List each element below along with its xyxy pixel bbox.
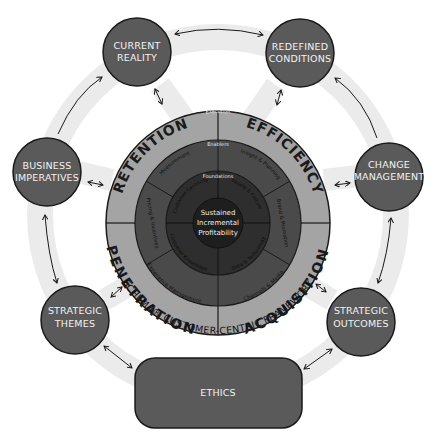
svg-text:REALITY: REALITY — [117, 52, 157, 63]
node-ethics: ETHICS — [135, 358, 302, 428]
svg-text:STRATEGIC: STRATEGIC — [48, 305, 102, 316]
svg-text:MANAGEMENT: MANAGEMENT — [354, 171, 425, 182]
core-line-1: Sustained — [201, 209, 236, 217]
core-line-2: Incremental — [197, 219, 239, 227]
svg-text:REDEFINED: REDEFINED — [272, 41, 328, 52]
node-current-reality: CURRENT REALITY — [103, 18, 171, 86]
node-change-management: CHANGE MANAGEMENT — [354, 143, 425, 211]
node-strategic-themes: STRATEGIC THEMES — [41, 286, 109, 354]
svg-text:OUTCOMES: OUTCOMES — [333, 318, 389, 329]
svg-text:IMPERATIVES: IMPERATIVES — [15, 172, 79, 183]
enablers-label: Enablers — [207, 141, 229, 147]
node-strategic-outcomes: STRATEGIC OUTCOMES — [327, 288, 395, 356]
svg-text:CURRENT: CURRENT — [113, 40, 160, 51]
svg-text:BUSINESS: BUSINESS — [22, 160, 71, 171]
execution-label: Execution — [205, 108, 230, 115]
svg-text:CHANGE: CHANGE — [368, 159, 410, 170]
svg-text:CONDITIONS: CONDITIONS — [269, 53, 332, 64]
node-business-imperatives: BUSINESS IMPERATIVES — [13, 138, 81, 206]
framework-diagram: Execution RETENTION EFFICIENCY PENETRATI… — [0, 0, 436, 441]
core-line-3: Profitability — [198, 229, 238, 237]
svg-text:STRATEGIC: STRATEGIC — [334, 305, 388, 316]
svg-text:ETHICS: ETHICS — [200, 387, 236, 398]
svg-text:THEMES: THEMES — [54, 318, 95, 329]
node-redefined-conditions: REDEFINED CONDITIONS — [266, 19, 334, 87]
